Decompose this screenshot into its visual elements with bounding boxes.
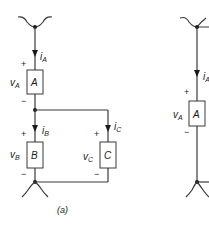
current-arrow-a-icon — [32, 50, 38, 57]
element-a-label: A — [30, 77, 38, 88]
voltage-label-a: vA — [10, 77, 20, 89]
voltage-label-b: vB — [10, 149, 20, 161]
current-arrow-b-icon — [32, 125, 38, 132]
right-current-label-a: iA — [203, 71, 209, 83]
bottom-branch-wires — [22, 182, 48, 197]
right-plus-sign: + — [184, 87, 189, 97]
plus-sign-a: + — [21, 59, 26, 69]
minus-sign-b: − — [21, 169, 26, 179]
right-minus-sign: − — [184, 127, 189, 137]
current-label-b: iB — [42, 125, 49, 137]
right-element-a-label: A — [192, 109, 200, 120]
minus-sign-c: − — [94, 169, 99, 179]
figure-caption: (a) — [57, 205, 68, 215]
right-current-arrow-icon — [194, 70, 200, 77]
voltage-label-c: vC — [83, 151, 94, 163]
element-b-label: B — [31, 150, 38, 161]
element-c-label: C — [104, 150, 112, 161]
right-voltage-label-a: vA — [173, 109, 183, 121]
circuit-diagram: iA + vA A − iB + vB B − iC + vC C − (a) … — [0, 0, 209, 230]
plus-sign-c: + — [94, 129, 99, 139]
plus-sign-b: + — [21, 129, 26, 139]
current-arrow-c-icon — [105, 125, 111, 132]
right-bottom-branch-wires — [186, 182, 209, 197]
right-circuit: iA + vA A − — [173, 18, 209, 198]
current-label-c: iC — [114, 121, 122, 133]
current-label-a: iA — [40, 51, 47, 63]
left-circuit: iA + vA A − iB + vB B − iC + vC C − (a) — [10, 17, 122, 215]
minus-sign-a: − — [21, 96, 26, 106]
